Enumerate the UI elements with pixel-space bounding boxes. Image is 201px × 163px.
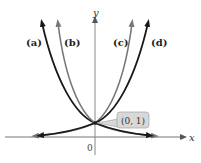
label-c: (c) — [113, 37, 129, 48]
label-d: (d) — [151, 37, 167, 48]
curve-c-tail — [35, 123, 95, 136]
intersection-point — [93, 121, 97, 125]
x-axis-label: x — [189, 132, 195, 143]
exponential-graph: (0, 1) (a) (b) (c) (d) y x 0 — [0, 0, 201, 163]
origin-label: 0 — [87, 143, 93, 153]
curve-d-tail — [40, 123, 95, 136]
point-label: (0, 1) — [121, 116, 145, 126]
label-b: (b) — [64, 37, 80, 48]
label-a: (a) — [26, 37, 42, 48]
y-axis-label: y — [92, 7, 99, 18]
